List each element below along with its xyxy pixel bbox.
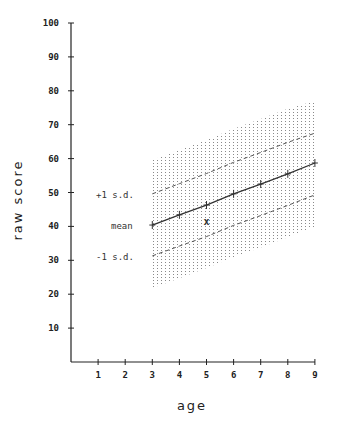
x-tick-label: 9 (312, 370, 317, 380)
y-tick-label: 50 (48, 188, 59, 198)
y-tick-label: 30 (48, 255, 59, 265)
y-tick-label: 20 (48, 289, 59, 299)
x-tick-label: 2 (122, 370, 127, 380)
plus-sd-label: +1 s.d. (96, 190, 134, 200)
x-tick-label: 8 (285, 370, 290, 380)
x-marker: x (204, 216, 210, 227)
minus-sd-label: -1 s.d. (96, 252, 134, 262)
y-tick-label: 80 (48, 86, 59, 96)
x-tick-label: 3 (150, 370, 155, 380)
y-tick-label: 40 (48, 221, 59, 231)
y-tick-label: 100 (43, 18, 59, 28)
x-tick-label: 5 (204, 370, 209, 380)
y-tick-label: 70 (48, 120, 59, 130)
y-tick-label: 10 (48, 323, 59, 333)
y-tick-label: 90 (48, 52, 59, 62)
y-axis-title: raw score (10, 159, 25, 240)
x-tick-label: 1 (95, 370, 100, 380)
x-tick-label: 7 (258, 370, 263, 380)
x-tick-label: 4 (177, 370, 183, 380)
x-axis-title: age (177, 398, 207, 413)
x-tick-label: 6 (231, 370, 236, 380)
mean-label: mean (111, 221, 133, 231)
y-tick-label: 60 (48, 154, 59, 164)
chart: 102030405060708090100123456789 +1 s.d. m… (0, 0, 340, 425)
